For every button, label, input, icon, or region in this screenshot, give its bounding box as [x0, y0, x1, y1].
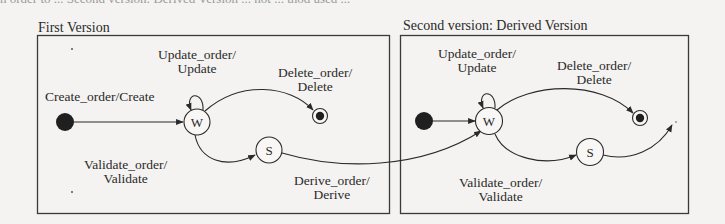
second-version-title: Second version: Derived Version [403, 18, 587, 33]
first-create-label: Create_order/Create [45, 90, 154, 104]
transition-label-line: Validate [459, 190, 542, 204]
speck [675, 121, 677, 123]
transition-label-line: Create_order/Create [45, 90, 154, 104]
first-update-selfloop [190, 96, 204, 110]
speck [71, 48, 73, 50]
first-w-label: W [187, 116, 207, 129]
derive-label: Derive_order/ Derive [294, 174, 370, 202]
transition-label-line: Derive_order/ [294, 174, 370, 188]
first-final-state-dot [316, 112, 324, 120]
transition-label-line: Delete [278, 80, 352, 94]
second-validate-label: Validate_order/ Validate [459, 176, 542, 204]
transition-label-line: Validate_order/ [459, 176, 542, 190]
transition-label-line: Update_order/ [158, 48, 236, 62]
first-s-label: S [259, 144, 279, 157]
first-version-title: First Version [38, 20, 110, 35]
transition-label-line: Update [158, 62, 236, 76]
transition-label-line: Derive [294, 188, 370, 202]
second-validate-transition [495, 134, 576, 161]
transition-label-line: Validate_order/ [84, 158, 167, 172]
second-w-label: W [479, 115, 499, 128]
speck [71, 191, 73, 193]
second-delete-transition [497, 89, 633, 113]
transition-label-line: Update [438, 61, 516, 75]
cut-off-text: n order to ... Second version: Derived V… [0, 0, 350, 7]
first-initial-state [56, 113, 74, 131]
second-delete-label: Delete_order/ Delete [557, 59, 631, 87]
first-delete-label: Delete_order/ Delete [278, 66, 352, 94]
second-initial-state [415, 112, 433, 130]
first-update-label: Update_order/ Update [158, 48, 236, 76]
second-s-label: S [580, 146, 600, 159]
second-final-state-dot [636, 114, 644, 122]
transition-label-line: Delete_order/ [278, 66, 352, 80]
transition-label-line: Delete_order/ [557, 59, 631, 73]
second-update-label: Update_order/ Update [438, 47, 516, 75]
second-next-transition [603, 125, 672, 157]
second-update-selfloop [482, 94, 496, 108]
transition-label-line: Delete [557, 73, 631, 87]
derive-transition [282, 131, 481, 164]
transition-label-line: Update_order/ [438, 47, 516, 61]
first-validate-label: Validate_order/ Validate [84, 158, 167, 186]
first-validate-transition [195, 135, 255, 162]
transition-label-line: Validate [84, 172, 167, 186]
